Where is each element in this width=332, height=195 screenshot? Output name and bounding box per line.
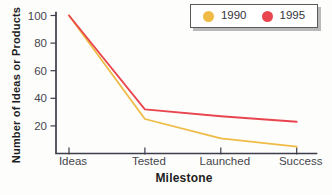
x-tick-label: Tested: [132, 155, 166, 167]
x-tick-label: Ideas: [59, 155, 87, 167]
y-axis-title: Number of Ideas or Products: [10, 7, 22, 163]
x-tick-label: Launched: [200, 155, 251, 167]
legend-swatch-1990: [203, 11, 214, 22]
axes: [56, 13, 317, 154]
legend-item-1995: 1995: [262, 10, 306, 22]
y-tick-label: 80: [34, 37, 47, 49]
series-line-1990: [69, 16, 297, 147]
chart-container: 20406080100IdeasTestedLaunchedSuccess Nu…: [0, 0, 332, 195]
y-tick-label: 40: [34, 92, 47, 104]
legend-label-1990: 1990: [221, 10, 247, 22]
legend-item-1990: 1990: [203, 10, 247, 22]
y-tick-label: 60: [34, 65, 47, 77]
line-chart: 20406080100IdeasTestedLaunchedSuccess: [0, 0, 332, 195]
legend-label-1995: 1995: [280, 10, 306, 22]
y-tick-label: 20: [34, 120, 47, 132]
y-tick-label: 100: [28, 10, 47, 22]
legend: 1990 1995: [190, 4, 318, 28]
x-axis-title: Milestone: [155, 171, 212, 185]
series-line-1995: [69, 16, 297, 122]
legend-swatch-1995: [262, 11, 273, 22]
x-tick-label: Success: [279, 155, 323, 167]
